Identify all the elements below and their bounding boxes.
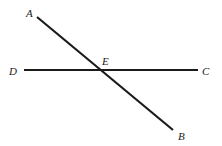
point-label-c: C bbox=[202, 65, 210, 77]
point-label-e: E bbox=[101, 55, 109, 67]
point-label-b: B bbox=[178, 130, 185, 142]
geometry-diagram: A E D C B bbox=[0, 0, 222, 146]
point-label-a: A bbox=[25, 7, 33, 19]
segment-ab bbox=[37, 17, 173, 130]
point-label-d: D bbox=[8, 65, 17, 77]
